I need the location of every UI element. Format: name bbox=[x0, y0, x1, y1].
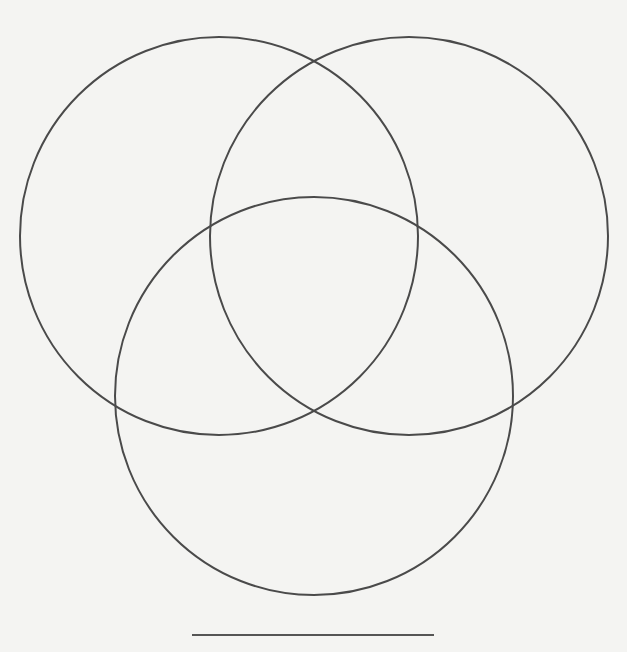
venn-circle-bottom bbox=[115, 197, 513, 595]
venn-circle-top-right bbox=[210, 37, 608, 435]
venn-circle-top-left bbox=[20, 37, 418, 435]
venn-diagram bbox=[0, 0, 627, 652]
